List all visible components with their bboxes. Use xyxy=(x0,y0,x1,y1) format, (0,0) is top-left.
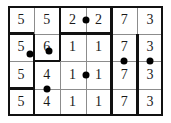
dot-r3r4-c2 xyxy=(43,85,50,92)
cell-r1-c2: 5 xyxy=(34,6,60,34)
cell-r4-c2: 4 xyxy=(34,89,60,117)
dot-r3-c3c4 xyxy=(82,71,89,78)
cell-r4-c1: 5 xyxy=(8,89,34,117)
cell-r2-c3: 1 xyxy=(60,34,86,62)
cell-r3-c5: 7 xyxy=(111,61,137,89)
numeric-grid-figure: 5 5 2 2 7 3 5 6 1 1 7 3 5 4 1 1 7 3 5 4 … xyxy=(0,0,171,123)
cell-r1-c4: 2 xyxy=(86,6,112,34)
dot-r2r3-c6 xyxy=(147,58,154,65)
cell-r4-c5: 7 xyxy=(111,89,137,117)
cell-r2-c4: 1 xyxy=(86,34,112,62)
dot-r2-c2 xyxy=(45,48,52,55)
cell-r3-c6: 3 xyxy=(137,61,163,89)
cell-r1-c5: 7 xyxy=(111,6,137,34)
cell-r4-c3: 1 xyxy=(60,89,86,117)
cell-r4-c4: 1 xyxy=(86,89,112,117)
dot-r2-c1 xyxy=(27,51,34,58)
dot-r2r3-c5 xyxy=(121,58,128,65)
cell-r1-c1: 5 xyxy=(8,6,34,34)
dot-r1-c3c4 xyxy=(82,16,89,23)
cell-r3-c1: 5 xyxy=(8,61,34,89)
cell-r4-c6: 3 xyxy=(137,89,163,117)
cell-r1-c6: 3 xyxy=(137,6,163,34)
grid-plate: 5 5 2 2 7 3 5 6 1 1 7 3 5 4 1 1 7 3 5 4 … xyxy=(8,6,163,116)
cell-r3-c4: 1 xyxy=(86,61,112,89)
